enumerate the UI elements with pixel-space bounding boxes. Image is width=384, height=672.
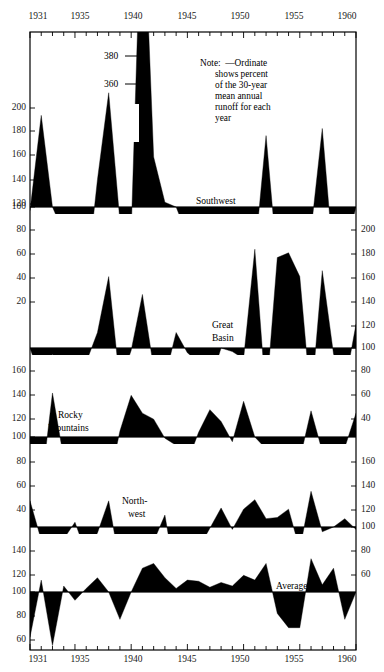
y-axis-left-label: 180: [0, 126, 26, 136]
x-axis-bottom-label: 1935: [60, 655, 100, 665]
y-axis-left-label: 140: [0, 390, 26, 400]
panel-label-average: Average: [276, 581, 307, 592]
callout-380-label: 380: [104, 52, 118, 62]
x-axis-top-label: 1945: [167, 12, 207, 22]
panel-label-northwest: North-: [122, 496, 147, 507]
note-line-5: runoff for each: [215, 102, 271, 113]
y-axis-right-label: 100: [361, 343, 384, 353]
y-axis-left-label: 60: [0, 249, 26, 259]
panel-label-rocky-mountains: Rocky: [58, 410, 83, 421]
callout-360-label: 360: [104, 80, 118, 90]
y-axis-right-label: 100: [361, 522, 384, 532]
y-axis-left-label: 40: [0, 273, 26, 283]
y-axis-left-label: 80: [0, 457, 26, 467]
x-axis-bottom-label: 1950: [220, 655, 260, 665]
chart-canvas: [0, 0, 384, 672]
y-axis-left-label: 100: [0, 202, 26, 212]
panel-label-great-basin-2: Basin: [212, 333, 234, 344]
x-axis-top-label: 1935: [60, 12, 100, 22]
x-axis-top-label: 1950: [220, 12, 260, 22]
x-axis-top-label: 1960: [327, 12, 367, 22]
spike-notch: [132, 104, 139, 142]
note-line-1: Note: —Ordinate: [200, 58, 267, 69]
y-axis-left-label: 60: [0, 481, 26, 491]
y-axis-right-label: 200: [361, 225, 384, 235]
x-axis-bottom-label: 1960: [327, 655, 367, 665]
y-axis-left-label: 200: [0, 103, 26, 113]
note-line-3: of the 30-year: [215, 80, 267, 91]
y-axis-left-label: 140: [0, 175, 26, 185]
y-axis-right-label: 140: [361, 297, 384, 307]
x-axis-top-label: 1931: [18, 12, 58, 22]
y-axis-left-label: 40: [0, 505, 26, 515]
panel-label-rocky-mountains-2: Mountains: [48, 423, 89, 434]
y-axis-right-label: 160: [361, 457, 384, 467]
x-axis-top-label: 1955: [274, 12, 314, 22]
y-axis-right-label: 140: [361, 481, 384, 491]
y-axis-right-label: 60: [361, 570, 384, 580]
y-axis-right-label: 60: [361, 390, 384, 400]
y-axis-left-label: 120: [0, 414, 26, 424]
y-axis-left-label: 20: [0, 297, 26, 307]
y-axis-left-label: 160: [0, 366, 26, 376]
y-axis-right-label: 80: [361, 546, 384, 556]
y-axis-right-label: 40: [361, 414, 384, 424]
panel-label-northwest-2: west: [128, 509, 145, 520]
y-axis-right-label: 120: [361, 505, 384, 515]
y-axis-left-label: 100: [0, 432, 26, 442]
x-axis-bottom-label: 1945: [167, 655, 207, 665]
note-line-2: shows percent: [215, 69, 268, 80]
runoff-chart: 1931 1935 1940 1945 1950 1955 1960 1931 …: [0, 0, 384, 672]
y-axis-left-label: 80: [0, 611, 26, 621]
y-axis-left-label: 120: [0, 570, 26, 580]
x-axis-top-label: 1940: [113, 12, 153, 22]
y-axis-right-label: 160: [361, 273, 384, 283]
note-line-4: mean annual: [215, 91, 262, 102]
x-axis-bottom-label: 1940: [113, 655, 153, 665]
y-axis-left-label: 140: [0, 546, 26, 556]
y-axis-left-label: 80: [0, 225, 26, 235]
y-axis-right-label: 80: [361, 366, 384, 376]
x-axis-bottom-label: 1955: [274, 655, 314, 665]
y-axis-left-label: 60: [0, 635, 26, 645]
plot-background: [30, 32, 356, 650]
panel-label-southwest: Southwest: [196, 196, 236, 207]
y-axis-right-label: 180: [361, 249, 384, 259]
panel-label-great-basin: Great: [212, 320, 233, 331]
y-axis-right-label: 120: [361, 321, 384, 331]
x-axis-bottom-label: 1931: [18, 655, 58, 665]
y-axis-left-label: 100: [0, 587, 26, 597]
y-axis-left-label: 160: [0, 150, 26, 160]
note-line-6: year: [215, 113, 231, 124]
